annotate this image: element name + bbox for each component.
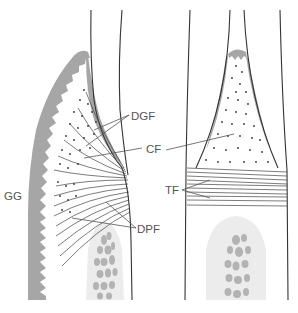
- tooth-right-inner: [244, 10, 278, 168]
- transseptal-fibers: [187, 168, 287, 206]
- gingival-epithelium: [28, 51, 90, 300]
- label-tf: TF: [165, 184, 179, 196]
- tooth-left-outer: [185, 10, 190, 300]
- tooth-right-outer: [280, 10, 288, 300]
- left-panel: [28, 10, 142, 300]
- label-dpf: DPF: [137, 223, 160, 235]
- gingival-fibers-diagram: GG DGF CF TF DPF: [0, 0, 298, 313]
- label-cf: CF: [146, 143, 161, 155]
- label-gg: GG: [4, 190, 22, 202]
- alveolar-bone-right: [206, 216, 266, 300]
- right-panel: [166, 10, 288, 300]
- col-epithelium: [228, 49, 247, 60]
- tooth-left-inner: [196, 10, 230, 168]
- label-dgf: DGF: [131, 110, 155, 122]
- alveolar-bone-left: [86, 222, 124, 300]
